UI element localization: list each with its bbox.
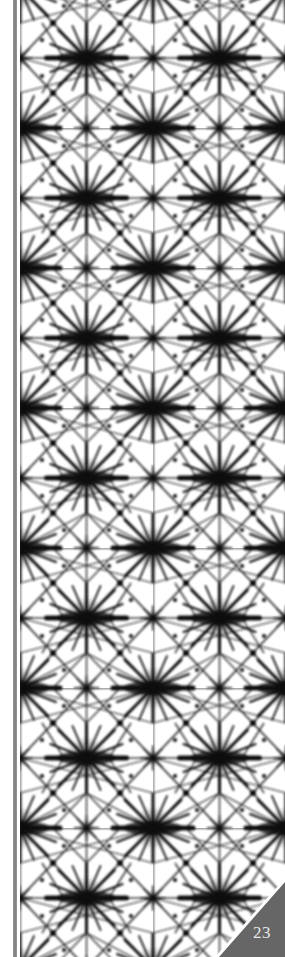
shibori-pattern <box>20 0 285 957</box>
page-margin <box>0 0 13 957</box>
page-number: 23 <box>253 923 271 943</box>
spine-bar <box>13 0 17 957</box>
